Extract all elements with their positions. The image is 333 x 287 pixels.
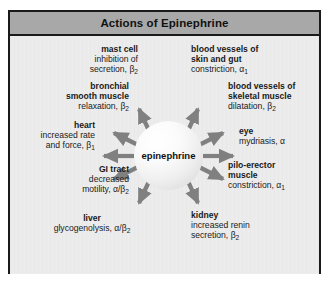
diagram-canvas: epinephrine mast cell inhibition of secr… bbox=[10, 36, 319, 274]
label-blood-vessels-skeletal-muscle: blood vessels of skeletal muscle dilatat… bbox=[228, 81, 295, 113]
eye-effect: mydriasis, α bbox=[239, 136, 285, 147]
eye-organ: eye bbox=[239, 126, 285, 136]
kidney-effect-1: increased renin bbox=[191, 220, 250, 230]
bronchial-organ-1: bronchial bbox=[66, 81, 129, 91]
label-pilo-erector-muscle: pilo-erector muscle constriction, α1 bbox=[228, 160, 285, 192]
liver-organ: liver bbox=[38, 213, 146, 223]
label-eye: eye mydriasis, α bbox=[239, 126, 285, 147]
liver-effect: glycogenolysis, α/β2 bbox=[38, 223, 146, 234]
bv-skin-gut-organ-2: skin and gut bbox=[191, 54, 258, 64]
heart-organ: heart bbox=[41, 120, 95, 130]
bronchial-effect: relaxation, β2 bbox=[66, 101, 129, 112]
pilo-erector-organ-1: pilo-erector bbox=[228, 160, 285, 170]
label-blood-vessels-skin-gut: blood vessels of skin and gut constricti… bbox=[191, 44, 258, 76]
label-mast-cell: mast cell inhibition of secretion, β2 bbox=[90, 44, 138, 76]
label-kidney: kidney increased renin secretion, β2 bbox=[191, 210, 250, 242]
arrow-pilo-erector bbox=[197, 166, 223, 179]
label-liver: liver glycogenolysis, α/β2 bbox=[38, 213, 146, 234]
gi-tract-effect-2: motility, α/β2 bbox=[82, 184, 129, 195]
bv-skin-gut-effect: constriction, α1 bbox=[191, 64, 258, 75]
pilo-erector-effect: constriction, α1 bbox=[228, 180, 285, 191]
pilo-erector-organ-2: muscle bbox=[228, 170, 285, 180]
label-bronchial-smooth-muscle: bronchial smooth muscle relaxation, β2 bbox=[66, 81, 129, 113]
gi-tract-effect-1: decreased bbox=[82, 174, 129, 184]
mast-cell-organ: mast cell bbox=[90, 44, 138, 54]
gi-tract-organ: GI tract bbox=[82, 164, 129, 174]
kidney-effect-2: secretion, β2 bbox=[191, 230, 250, 241]
bv-skeletal-organ-2: skeletal muscle bbox=[228, 91, 295, 101]
bv-skeletal-effect: dilatation, β2 bbox=[228, 101, 295, 112]
bv-skeletal-organ-1: blood vessels of bbox=[228, 81, 295, 91]
mast-cell-effect-1: inhibition of bbox=[90, 54, 138, 64]
bv-skin-gut-organ-1: blood vessels of bbox=[191, 44, 258, 54]
heart-effect-2: and force, β1 bbox=[41, 140, 95, 151]
figure-title-bar: Actions of Epinephrine bbox=[10, 12, 319, 36]
figure-title: Actions of Epinephrine bbox=[100, 17, 228, 29]
heart-effect-1: increased rate bbox=[41, 130, 95, 140]
epinephrine-label: epinephrine bbox=[142, 150, 196, 161]
label-heart: heart increased rate and force, β1 bbox=[41, 120, 95, 152]
epinephrine-node: epinephrine bbox=[134, 121, 203, 190]
bronchial-organ-2: smooth muscle bbox=[66, 91, 129, 101]
kidney-organ: kidney bbox=[191, 210, 250, 220]
mast-cell-effect-2: secretion, β2 bbox=[90, 64, 138, 75]
label-gi-tract: GI tract decreased motility, α/β2 bbox=[82, 164, 129, 196]
figure-panel: Actions of Epinephrine bbox=[8, 10, 321, 274]
